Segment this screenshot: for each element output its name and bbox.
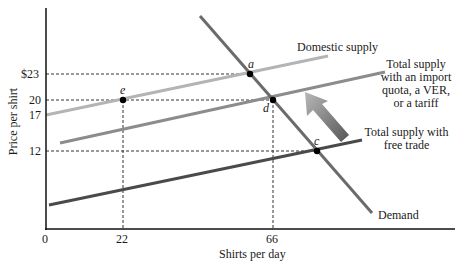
- x-tick-0: 0: [42, 233, 48, 245]
- y-tick-17: 17: [29, 109, 41, 121]
- point-c-label: c: [314, 135, 319, 147]
- point-d-label: d: [263, 102, 269, 114]
- quota-supply-label: Total supply with an import quota, a VER…: [376, 58, 456, 110]
- y-tick-12: 12: [29, 145, 41, 157]
- free-label-line: free trade: [354, 139, 459, 152]
- demand-label: Demand: [378, 209, 419, 222]
- y-axis-label: Price per shirt: [6, 87, 21, 157]
- x-tick-22: 22: [116, 233, 128, 245]
- domestic-supply-label: Domestic supply: [297, 41, 378, 54]
- free-trade-supply-label: Total supply with free trade: [354, 126, 459, 152]
- x-axis-label: Shirts per day: [219, 248, 286, 261]
- y-tick-23: $23: [21, 68, 39, 80]
- shift-arrow-icon: [305, 92, 349, 142]
- x-tick-66: 66: [266, 233, 278, 245]
- domestic-supply-line: [46, 56, 328, 115]
- equilibrium-points: [120, 71, 320, 154]
- y-tick-20: 20: [29, 94, 41, 106]
- point-a-label: a: [248, 58, 254, 70]
- point-e-label: e: [120, 84, 125, 96]
- quota-label-line: or a tariff: [376, 97, 456, 110]
